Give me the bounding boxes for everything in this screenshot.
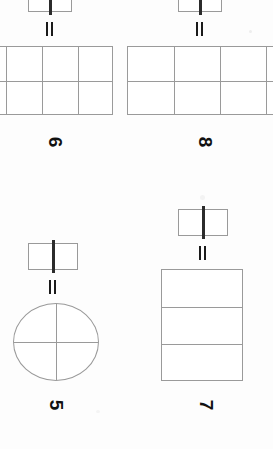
problem-6-equals-sign bbox=[44, 22, 56, 36]
problem-7-equals-sign bbox=[197, 246, 209, 260]
problem-6-number: 6 bbox=[43, 130, 67, 154]
problem-7-number: 7 bbox=[194, 393, 218, 417]
problem-6-grid-figure bbox=[0, 46, 113, 115]
problem-8-bar-divider bbox=[199, 0, 202, 15]
problem-7-grid-figure bbox=[161, 269, 243, 381]
problem-7-halves-bar bbox=[178, 209, 228, 236]
problem-5-number: 5 bbox=[44, 393, 68, 417]
scan-speck bbox=[249, 30, 252, 33]
problem-8-number: 8 bbox=[193, 130, 217, 154]
problem-5-equals-sign bbox=[47, 280, 59, 294]
scan-speck bbox=[200, 195, 205, 200]
problem-5-halves-bar bbox=[28, 243, 78, 270]
problem-6-bar-divider bbox=[49, 0, 52, 15]
worksheet-page: 6 8 5 bbox=[0, 0, 273, 449]
problem-5-bar-divider bbox=[52, 240, 55, 273]
problem-8-equals-sign bbox=[194, 22, 206, 36]
problem-5-circle-figure bbox=[13, 303, 99, 381]
scan-speck bbox=[96, 410, 100, 413]
problem-7-bar-divider bbox=[202, 206, 205, 239]
problem-8-grid-figure bbox=[127, 46, 273, 115]
problem-8-halves-bar bbox=[178, 0, 222, 12]
problem-6-halves-bar bbox=[28, 0, 72, 12]
